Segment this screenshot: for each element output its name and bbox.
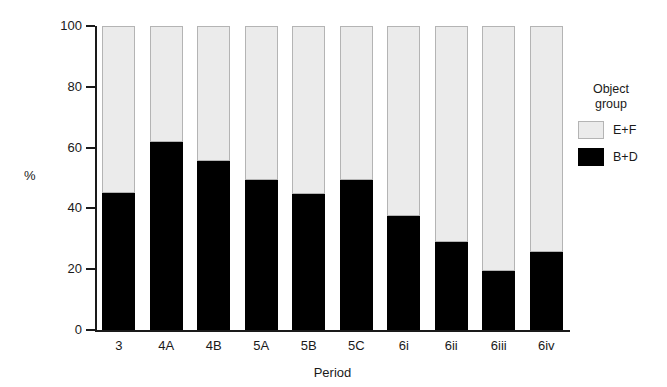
y-axis-tick bbox=[86, 86, 95, 88]
x-axis-tick-label: 6ii bbox=[425, 339, 478, 352]
y-axis-tick-label-wrap: 60 bbox=[38, 141, 82, 154]
y-axis-tick-label: 60 bbox=[42, 141, 82, 154]
x-axis-tick-label: 5A bbox=[235, 339, 288, 352]
y-axis-tick-label: 20 bbox=[42, 262, 82, 275]
x-axis-tick-label: 6i bbox=[377, 339, 430, 352]
x-axis-tick-label: 6iii bbox=[472, 339, 525, 352]
legend-item-label: B+D bbox=[613, 150, 638, 164]
legend-title: Object group bbox=[578, 82, 644, 112]
y-axis-tick-label-wrap: 80 bbox=[38, 80, 82, 93]
y-axis-tick-label-wrap: 100 bbox=[38, 19, 82, 32]
bar-group[interactable] bbox=[197, 26, 230, 330]
y-axis-tick bbox=[86, 268, 95, 270]
x-axis-tick-label: 6iv bbox=[520, 339, 573, 352]
bar-group[interactable] bbox=[387, 26, 420, 330]
y-axis-tick-label-wrap: 20 bbox=[38, 262, 82, 275]
bar-segment-bd[interactable] bbox=[245, 180, 278, 330]
bar-group[interactable] bbox=[530, 26, 563, 330]
bar-segment-ef[interactable] bbox=[102, 26, 135, 193]
bar-segment-ef[interactable] bbox=[150, 26, 183, 142]
stacked-bar-chart: 020406080100 % 34A4B5A5B5C6i6ii6iii6iv P… bbox=[0, 0, 667, 387]
legend-title-line-1: Object bbox=[578, 82, 644, 97]
y-axis-tick-label: 0 bbox=[42, 323, 82, 336]
x-axis-title: Period bbox=[95, 365, 570, 380]
y-axis-title: % bbox=[24, 168, 36, 183]
y-axis-tick-label-wrap: 40 bbox=[38, 201, 82, 214]
legend-entries: E+FB+D bbox=[578, 121, 664, 166]
legend-title-line-2: group bbox=[578, 97, 644, 112]
bar-group[interactable] bbox=[435, 26, 468, 330]
bar-group[interactable] bbox=[150, 26, 183, 330]
bar-segment-ef[interactable] bbox=[340, 26, 373, 180]
y-axis-tick bbox=[86, 147, 95, 149]
bar-segment-ef[interactable] bbox=[482, 26, 515, 271]
legend-item-label: E+F bbox=[613, 123, 636, 137]
bar-segment-bd[interactable] bbox=[102, 193, 135, 330]
bar-segment-ef[interactable] bbox=[245, 26, 278, 180]
x-axis-tick-label: 3 bbox=[92, 339, 145, 352]
y-axis-tick bbox=[86, 25, 95, 27]
y-axis-tick bbox=[86, 207, 95, 209]
bar-segment-bd[interactable] bbox=[150, 142, 183, 330]
x-axis-tick-label: 4A bbox=[140, 339, 193, 352]
legend-swatch-icon bbox=[578, 121, 604, 139]
legend-item[interactable]: B+D bbox=[578, 148, 664, 166]
bar-segment-bd[interactable] bbox=[387, 216, 420, 330]
bar-segment-ef[interactable] bbox=[435, 26, 468, 242]
y-axis-tick-label-wrap: 0 bbox=[38, 323, 82, 336]
bar-segment-ef[interactable] bbox=[197, 26, 230, 161]
y-axis-tick-label: 80 bbox=[42, 80, 82, 93]
legend-swatch-icon bbox=[578, 148, 604, 166]
y-axis-tick-label: 100 bbox=[42, 19, 82, 32]
bar-segment-bd[interactable] bbox=[197, 161, 230, 330]
bar-segment-bd[interactable] bbox=[530, 252, 563, 330]
bar-group[interactable] bbox=[102, 26, 135, 330]
y-axis-tick bbox=[86, 329, 95, 331]
bar-segment-ef[interactable] bbox=[530, 26, 563, 252]
x-axis-tick-label: 5B bbox=[282, 339, 335, 352]
bar-segment-bd[interactable] bbox=[435, 242, 468, 330]
x-axis-tick-label: 4B bbox=[187, 339, 240, 352]
bar-segment-bd[interactable] bbox=[292, 194, 325, 330]
bar-segment-ef[interactable] bbox=[292, 26, 325, 194]
bar-group[interactable] bbox=[292, 26, 325, 330]
plot-area bbox=[95, 26, 570, 330]
x-axis-tick-label: 5C bbox=[330, 339, 383, 352]
legend-item[interactable]: E+F bbox=[578, 121, 664, 139]
bar-segment-bd[interactable] bbox=[340, 180, 373, 330]
bar-group[interactable] bbox=[340, 26, 373, 330]
bar-segment-bd[interactable] bbox=[482, 271, 515, 330]
bar-segment-ef[interactable] bbox=[387, 26, 420, 216]
bar-group[interactable] bbox=[482, 26, 515, 330]
x-axis-line bbox=[95, 330, 570, 332]
bar-group[interactable] bbox=[245, 26, 278, 330]
legend: Object group E+FB+D bbox=[578, 82, 664, 166]
y-axis-tick-label: 40 bbox=[42, 201, 82, 214]
